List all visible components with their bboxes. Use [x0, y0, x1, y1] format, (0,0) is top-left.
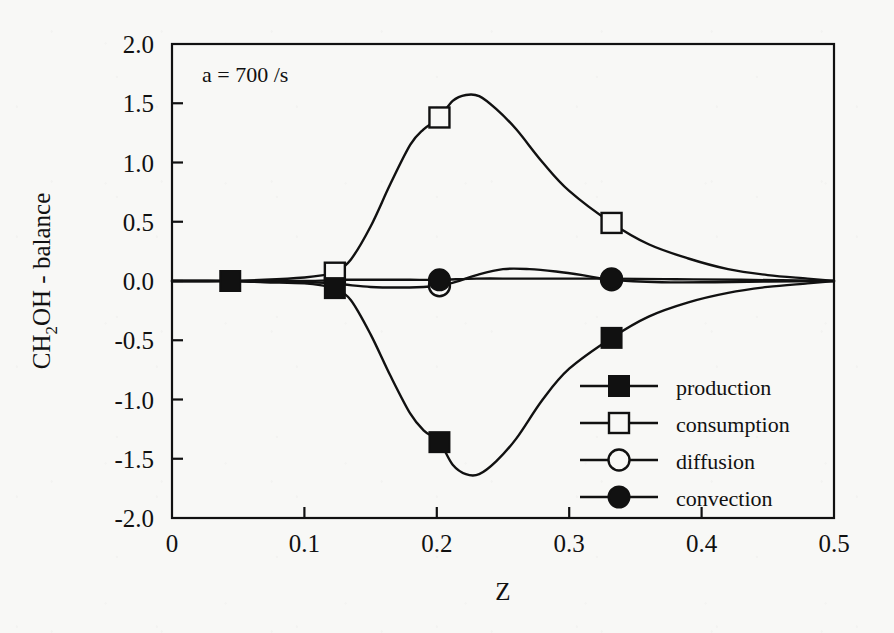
x-tick-label: 0.3: [554, 530, 585, 557]
marker-filled-circle: [429, 269, 450, 290]
y-axis-title-pre: CH: [28, 335, 55, 370]
figure-canvas: 00.10.20.30.40.52.01.51.00.50.0-0.5-1.0-…: [0, 0, 894, 633]
series-markers-diffusion: [429, 269, 622, 296]
series-line-consumption: [172, 94, 834, 281]
x-tick-label: 0.2: [421, 530, 452, 557]
legend-item-diffusion[interactable]: diffusion: [580, 449, 755, 474]
x-tick-label: 0.1: [289, 530, 320, 557]
legend-label: convection: [676, 486, 773, 511]
marker-open-circle: [609, 450, 630, 471]
y-tick-label: 1.0: [123, 150, 154, 177]
series-markers-production: [220, 271, 621, 452]
data-point-consumption: [602, 213, 622, 233]
legend-item-convection[interactable]: convection: [580, 486, 773, 511]
x-tick-label: 0.4: [686, 530, 718, 557]
y-axis-title-post: OH - balance: [28, 193, 55, 326]
marker-filled-square: [220, 271, 240, 291]
legend-marker-diffusion: [609, 450, 630, 471]
y-axis-title-subscript: 2: [42, 326, 61, 335]
data-point-production: [220, 271, 240, 291]
data-point-production: [429, 432, 449, 452]
chart-svg: 00.10.20.30.40.52.01.51.00.50.0-0.5-1.0-…: [0, 0, 894, 633]
plot-annotation: a = 700 /s: [202, 62, 288, 87]
marker-filled-square: [429, 432, 449, 452]
x-tick-label: 0: [166, 530, 179, 557]
data-point-convection: [429, 269, 450, 290]
marker-open-square: [609, 413, 629, 433]
legend-label: consumption: [676, 412, 790, 437]
y-tick-label: -1.0: [114, 387, 154, 414]
data-point-consumption: [429, 107, 449, 127]
marker-filled-square: [325, 278, 345, 298]
legend-item-production[interactable]: production: [580, 375, 771, 400]
y-tick-label: -0.5: [114, 327, 154, 354]
legend-marker-production: [609, 376, 629, 396]
marker-filled-square: [602, 328, 622, 348]
y-tick-label: 1.5: [123, 90, 154, 117]
series-markers-consumption: [325, 107, 622, 282]
marker-filled-circle: [601, 268, 622, 289]
legend-item-consumption[interactable]: consumption: [580, 412, 790, 437]
legend-marker-convection: [609, 487, 630, 508]
series-consumption: [172, 94, 834, 281]
legend-marker-consumption: [609, 413, 629, 433]
marker-open-square: [429, 107, 449, 127]
marker-filled-circle: [609, 487, 630, 508]
y-tick-label: 0.0: [123, 268, 154, 295]
y-tick-label: -2.0: [114, 505, 154, 532]
chart-legend: productionconsumptiondiffusionconvection: [580, 375, 790, 511]
y-tick-label: -1.5: [114, 446, 154, 473]
legend-label: production: [676, 375, 771, 400]
legend-label: diffusion: [676, 449, 755, 474]
data-point-convection: [601, 268, 622, 289]
x-axis-title: Z: [495, 578, 510, 605]
y-axis-title: CH2OH - balance: [28, 193, 61, 370]
y-tick-label: 2.0: [123, 31, 154, 58]
marker-open-square: [602, 213, 622, 233]
y-tick-label: 0.5: [123, 209, 154, 236]
marker-filled-square: [609, 376, 629, 396]
data-point-production: [602, 328, 622, 348]
data-point-production: [325, 278, 345, 298]
x-tick-label: 0.5: [818, 530, 849, 557]
